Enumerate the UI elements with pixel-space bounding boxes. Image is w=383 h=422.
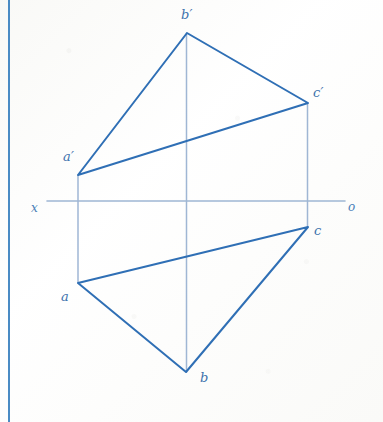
- vertex-label-b: b: [200, 371, 209, 384]
- vertex-label-a: a: [61, 290, 69, 303]
- vertex-label-b-prime: b′: [181, 8, 193, 21]
- projection-figure: [0, 0, 383, 422]
- vertex-label-a-prime: a′: [63, 150, 74, 163]
- vertex-label-c: c: [314, 224, 322, 237]
- top-view-triangle: [78, 227, 308, 372]
- vertex-label-c-prime: c′: [313, 86, 324, 99]
- axis-label-x: x: [31, 202, 38, 214]
- front-view-triangle: [78, 33, 308, 175]
- axis-label-o: o: [348, 201, 355, 213]
- drawing-sheet: a′ b′ c′ a b c x o: [0, 0, 383, 422]
